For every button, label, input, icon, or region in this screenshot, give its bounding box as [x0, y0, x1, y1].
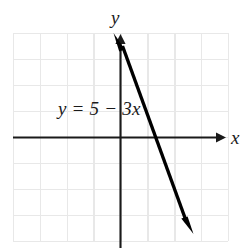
- y-axis-label: y: [111, 8, 119, 27]
- equation-annotation: y = 5 − 3x: [58, 99, 141, 118]
- coordinate-plane: [0, 0, 249, 248]
- line-arrowhead-bottom: [181, 216, 193, 234]
- graph-figure: y x y = 5 − 3x: [0, 0, 249, 248]
- x-axis-label: x: [231, 128, 239, 147]
- equation-line: [114, 33, 194, 234]
- x-axis-arrowhead: [216, 132, 226, 142]
